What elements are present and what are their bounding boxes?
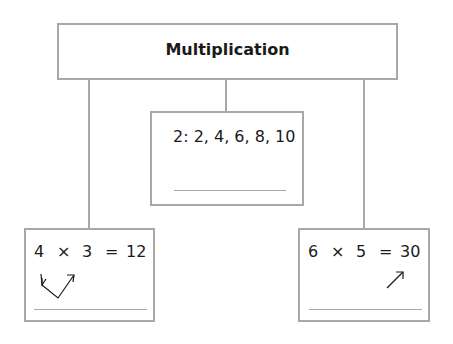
title-box: Multiplication — [57, 23, 398, 80]
answer-line[interactable] — [174, 190, 286, 191]
answer-line[interactable] — [34, 309, 147, 310]
connector-right — [363, 79, 365, 229]
connector-left — [88, 79, 90, 229]
diagram-title: Multiplication — [59, 40, 396, 59]
left-box: 4 × 3 = 12 — [24, 228, 155, 322]
right-box: 6 × 5 = 30 — [298, 228, 430, 322]
answer-line[interactable] — [309, 309, 422, 310]
connector-middle — [225, 79, 227, 112]
multiples-list: 2: 2, 4, 6, 8, 10 — [173, 127, 295, 146]
middle-box: 2: 2, 4, 6, 8, 10 — [150, 111, 304, 206]
